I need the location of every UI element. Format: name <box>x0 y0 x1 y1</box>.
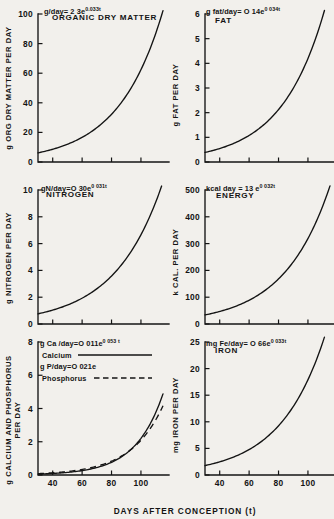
y-tick-label: 0 <box>28 157 33 167</box>
curve-fat <box>205 10 324 152</box>
y-tick-label: 100 <box>185 292 200 302</box>
x-tick-label: 60 <box>77 478 87 488</box>
y-tick-label: 6 <box>28 239 33 249</box>
y-axis-title: g CALCIUM AND PHOSPHORUS <box>4 355 13 484</box>
legend-label-calcium: Calcium <box>42 351 72 360</box>
y-tick-label: 80 <box>23 39 33 49</box>
axis-lines <box>38 190 169 324</box>
panel-title: ENERGY <box>216 191 254 200</box>
axis-lines <box>205 190 334 324</box>
curve-organic-dry-matter <box>38 11 163 153</box>
x-tick-label: 100 <box>134 478 149 488</box>
equation-label-secondary: g P/day=O 021e <box>40 362 96 371</box>
y-tick-label: 20 <box>23 127 33 137</box>
panel-organic_dry_matter: 020406080100g/day= 2 3e0.033tORGANIC DRY… <box>4 6 169 167</box>
y-tick-label: 0 <box>28 319 33 329</box>
y-tick-label: 15 <box>190 390 200 400</box>
curve-calcium <box>38 394 163 474</box>
y-tick-label: 4 <box>28 404 33 414</box>
panel-title: IRON <box>215 346 238 355</box>
equation-label: g Ca /day=O 011e0 053 t <box>40 338 120 348</box>
y-tick-label: 2 <box>28 292 33 302</box>
curve-phosphorus <box>38 406 163 474</box>
y-tick-label: 0 <box>28 470 33 480</box>
panel-energy: 0100200300400500kcal day = 13 e0 032tENE… <box>171 183 334 329</box>
y-tick-label: 20 <box>190 364 200 374</box>
curve-nitrogen <box>38 186 162 314</box>
y-tick-label: 3 <box>195 83 200 93</box>
panel-title: FAT <box>215 16 232 25</box>
y-axis-title: mg IRON PER DAY <box>171 377 180 453</box>
x-tick-label: 40 <box>215 478 225 488</box>
curve-energy <box>205 186 330 315</box>
y-tick-label: 5 <box>195 34 200 44</box>
y-tick-label: 300 <box>185 239 200 249</box>
equation-label: g fat/day= O 14e0 034t <box>206 6 280 16</box>
y-tick-label: 10 <box>190 417 200 427</box>
y-tick-label: 200 <box>185 265 200 275</box>
legend-label-phosphorus: Phosphorus <box>42 374 87 383</box>
y-tick-label: 2 <box>195 108 200 118</box>
panels-group: 020406080100g/day= 2 3e0.033tORGANIC DRY… <box>4 6 334 488</box>
y-tick-label: 6 <box>195 9 200 19</box>
curve-iron <box>205 337 324 465</box>
y-tick-label: 5 <box>195 443 200 453</box>
y-axis-title: g NITROGEN PER DAY <box>4 212 13 304</box>
axis-lines <box>205 14 334 162</box>
panel-nitrogen: 0246810gN/day=O 30e0 031tNITROGENg NITRO… <box>4 183 169 329</box>
y-tick-label: 2 <box>28 437 33 447</box>
y-axis-title: k CAL. PER DAY <box>171 229 180 296</box>
x-axis-label: DAYS AFTER CONCEPTION (t) <box>114 506 257 516</box>
y-tick-label: 6 <box>28 370 33 380</box>
y-tick-label: 400 <box>185 212 200 222</box>
y-tick-label: 8 <box>28 212 33 222</box>
y-axis-title: g ORG DRY MATTER PER DAY <box>4 26 13 149</box>
panel-calcium_phosphorus: 02468406080100g Ca /day=O 011e0 053 tg P… <box>4 337 169 488</box>
y-axis-title-line2: PER DAY <box>13 402 22 439</box>
y-axis-title: g FAT PER DAY <box>171 64 180 127</box>
y-tick-label: 60 <box>23 68 33 78</box>
axis-lines <box>205 342 334 475</box>
axis-lines <box>38 14 169 162</box>
panel-title: NITROGEN <box>46 190 94 199</box>
y-tick-label: 500 <box>185 185 200 195</box>
y-tick-label: 8 <box>28 337 33 347</box>
y-tick-label: 10 <box>23 185 33 195</box>
panel-title: ORGANIC DRY MATTER <box>52 13 157 22</box>
x-tick-label: 80 <box>107 478 117 488</box>
y-tick-label: 4 <box>195 58 200 68</box>
x-tick-label: 60 <box>244 478 254 488</box>
x-tick-label: 40 <box>48 478 58 488</box>
y-tick-label: 0 <box>195 157 200 167</box>
x-tick-label: 80 <box>274 478 284 488</box>
y-tick-label: 25 <box>190 337 200 347</box>
y-tick-label: 4 <box>28 265 33 275</box>
y-tick-label: 1 <box>195 132 200 142</box>
y-tick-label: 0 <box>195 470 200 480</box>
panel-fat: 0123456g fat/day= O 14e0 034tFATg FAT PE… <box>171 6 334 167</box>
panel-iron: 0510152025406080100mg Fe/day= O 66e0 033… <box>171 337 334 488</box>
y-tick-label: 40 <box>23 98 33 108</box>
y-tick-label: 100 <box>18 9 33 19</box>
y-tick-label: 0 <box>195 319 200 329</box>
nutrient-accretion-figure: 020406080100g/day= 2 3e0.033tORGANIC DRY… <box>0 0 334 519</box>
x-tick-label: 100 <box>301 478 316 488</box>
